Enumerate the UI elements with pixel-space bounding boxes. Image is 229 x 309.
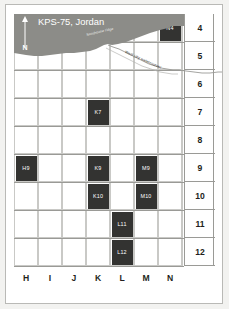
survey-square-L11[interactable]: L11 [112,212,133,237]
grid-cell-I8[interactable] [38,126,62,154]
grid-cell-M6[interactable] [134,70,158,98]
grid-cell-J11[interactable] [62,210,86,238]
grid-cell-L10[interactable] [110,182,134,210]
grid-rule-vertical [14,14,15,266]
grid-cell-L6[interactable] [110,70,134,98]
grid-cell-J7[interactable] [62,98,86,126]
grid-cell-I11[interactable] [38,210,62,238]
grid-cell-H7[interactable] [14,98,38,126]
grid-cell-K8[interactable] [86,126,110,154]
grid-cell-H6[interactable] [14,70,38,98]
grid-rule-horizontal [14,210,184,211]
grid-cell-K12[interactable] [86,238,110,266]
grid-rule-horizontal [14,70,184,71]
column-label-I: I [38,266,62,290]
grid-cell-J9[interactable] [62,154,86,182]
survey-square-N4[interactable]: N4 [160,16,181,41]
grid-cell-K6[interactable] [86,70,110,98]
grid-cell-M7[interactable] [134,98,158,126]
grid-cell-I5[interactable] [38,42,62,70]
grid-cell-J8[interactable] [62,126,86,154]
grid-cell-N9[interactable] [158,154,182,182]
grid-cell-N12[interactable] [158,238,182,266]
grid-cell-N10[interactable] [158,182,182,210]
map-title: KPS-75, Jordan [38,16,104,27]
column-label-gutter: HIJKLMN [14,266,214,290]
survey-square-K9[interactable]: K9 [88,156,109,181]
survey-square-M9[interactable]: M9 [136,156,157,181]
grid-cell-J6[interactable] [62,70,86,98]
grid-rule-horizontal [14,14,184,15]
row-label-7: 7 [185,98,215,126]
grid-cell-L4[interactable] [110,14,134,42]
grid-cell-I10[interactable] [38,182,62,210]
survey-square-M10[interactable]: M10 [136,184,157,209]
grid-rule-vertical [38,14,39,266]
row-label-gutter: 456789101112 [184,14,214,266]
grid-cell-M4[interactable] [134,14,158,42]
survey-square-L12[interactable]: L12 [112,240,133,265]
grid-rule-vertical [134,14,135,266]
grid-cell-H12[interactable] [14,238,38,266]
row-label-8: 8 [185,126,215,154]
grid-cell-I6[interactable] [38,70,62,98]
row-label-9: 9 [185,154,215,182]
grid-cell-H8[interactable] [14,126,38,154]
grid-cell-L8[interactable] [110,126,134,154]
site-grid-map: N4K7H9K9M9K10M10L11L12 N KPS-75, Jordan … [0,0,229,309]
grid-rule-horizontal [14,42,184,43]
grid-cell-J5[interactable] [62,42,86,70]
column-label-K: K [86,266,110,290]
row-label-4: 4 [185,14,215,42]
row-label-6: 6 [185,70,215,98]
grid-cell-N6[interactable] [158,70,182,98]
grid-cell-N7[interactable] [158,98,182,126]
grid-cell-I7[interactable] [38,98,62,126]
row-label-10: 10 [185,182,215,210]
grid-rule-vertical [158,14,159,266]
column-label-H: H [14,266,38,290]
column-label-M: M [134,266,158,290]
grid-cell-K11[interactable] [86,210,110,238]
row-label-5: 5 [185,42,215,70]
column-label-J: J [62,266,86,290]
grid-cell-I12[interactable] [38,238,62,266]
grid-cell-J12[interactable] [62,238,86,266]
grid-cell-M8[interactable] [134,126,158,154]
column-label-N: N [158,266,182,290]
grid-cell-K5[interactable] [86,42,110,70]
grid-cell-N8[interactable] [158,126,182,154]
grid-cell-L7[interactable] [110,98,134,126]
grid-rule-vertical [62,14,63,266]
grid-cell-H10[interactable] [14,182,38,210]
grid-cell-H11[interactable] [14,210,38,238]
survey-square-H9[interactable]: H9 [16,156,37,181]
grid-rule-vertical [86,14,87,266]
row-label-12: 12 [185,238,215,266]
grid-rule-horizontal [14,238,184,239]
survey-square-K7[interactable]: K7 [88,100,109,125]
survey-grid: N4K7H9K9M9K10M10L11L12 [14,14,184,266]
grid-cell-J10[interactable] [62,182,86,210]
grid-cell-M11[interactable] [134,210,158,238]
column-label-L: L [110,266,134,290]
north-label: N [19,44,31,51]
grid-cell-I9[interactable] [38,154,62,182]
grid-rule-horizontal [14,126,184,127]
grid-cell-M12[interactable] [134,238,158,266]
survey-square-K10[interactable]: K10 [88,184,109,209]
grid-rule-vertical [182,14,183,266]
grid-cell-N11[interactable] [158,210,182,238]
row-label-11: 11 [185,210,215,238]
grid-cell-L9[interactable] [110,154,134,182]
